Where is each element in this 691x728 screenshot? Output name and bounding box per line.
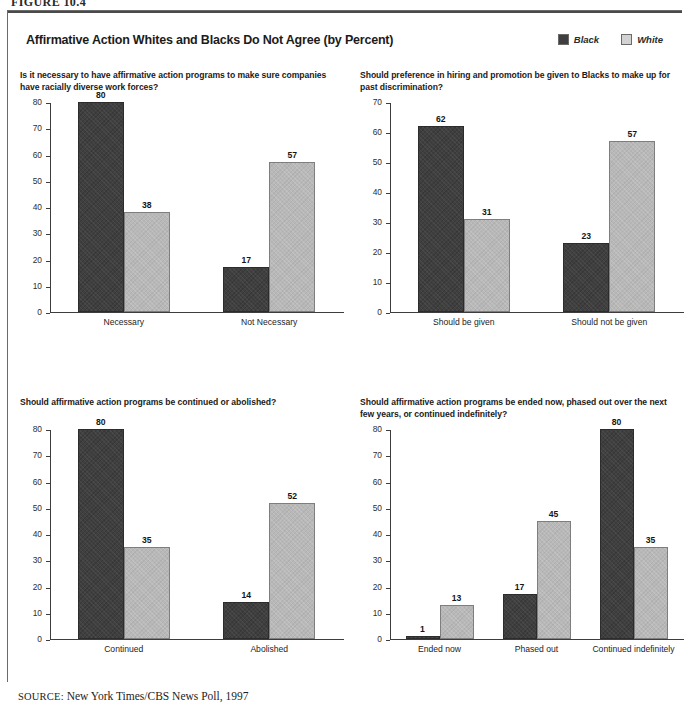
x-axis-label: Continued indefinitely bbox=[585, 642, 682, 660]
y-axis-tick-mark bbox=[386, 283, 390, 284]
bar-black-not-necessary[interactable]: 17 bbox=[223, 267, 269, 312]
bar-white-continued-indefinitely[interactable]: 35 bbox=[634, 547, 668, 639]
y-axis-tick-label: 70 bbox=[373, 97, 382, 107]
legend-item-white: White bbox=[621, 34, 663, 45]
bar-wrapper: 80 bbox=[78, 430, 124, 639]
bar-white-should-not-be-given[interactable]: 57 bbox=[609, 141, 655, 312]
bar-white-phased-out[interactable]: 45 bbox=[537, 521, 571, 639]
bar-wrapper: 80 bbox=[78, 103, 124, 312]
chart-panel-2: Should preference in hiring and promotio… bbox=[360, 69, 690, 369]
bar-group: 8038 bbox=[51, 103, 197, 312]
panel-question-1: Is it necessary to have affirmative acti… bbox=[20, 69, 338, 95]
y-axis-tick-mark bbox=[386, 193, 390, 194]
y-axis-tick-label: 0 bbox=[37, 307, 42, 317]
bar-value-label: 17 bbox=[515, 582, 525, 592]
bar-white-abolished[interactable]: 52 bbox=[269, 503, 315, 640]
y-axis-tick-label: 30 bbox=[373, 555, 382, 565]
bars-container: 11317458035 bbox=[391, 430, 682, 639]
y-axis-tick-label: 50 bbox=[373, 157, 382, 167]
legend-label-white: White bbox=[637, 34, 663, 45]
bar-value-label: 80 bbox=[612, 417, 622, 427]
bar-value-label: 35 bbox=[142, 535, 152, 545]
y-axis-tick-label: 60 bbox=[373, 477, 382, 487]
bar-value-label: 17 bbox=[241, 255, 251, 265]
y-axis-tick-mark bbox=[386, 103, 390, 104]
figure-header: Affirmative Action Whites and Blacks Do … bbox=[26, 33, 672, 55]
x-axis bbox=[50, 639, 344, 640]
bars-container: 62312357 bbox=[391, 103, 682, 312]
y-axis-tick-mark bbox=[46, 483, 50, 484]
y-axis-tick-mark bbox=[46, 509, 50, 510]
y-axis-tick-label: 70 bbox=[33, 450, 42, 460]
y-axis-tick-mark bbox=[46, 614, 50, 615]
bar-black-should-be-given[interactable]: 62 bbox=[418, 126, 464, 312]
y-axis-tick-label: 20 bbox=[373, 247, 382, 257]
y-axis-tick-mark bbox=[46, 456, 50, 457]
y-axis-tick-label: 20 bbox=[33, 255, 42, 265]
bar-white-should-be-given[interactable]: 31 bbox=[464, 219, 510, 312]
y-axis-tick-label: 80 bbox=[33, 97, 42, 107]
panel-question-3: Should affirmative action programs be co… bbox=[20, 396, 338, 422]
bar-value-label: 14 bbox=[241, 590, 251, 600]
bar-black-phased-out[interactable]: 17 bbox=[503, 594, 537, 639]
bar-value-label: 1 bbox=[420, 624, 425, 634]
y-axis-tick-label: 0 bbox=[37, 634, 42, 644]
bar-wrapper: 31 bbox=[464, 103, 510, 312]
chart-panels: Is it necessary to have affirmative acti… bbox=[16, 69, 684, 689]
bar-black-necessary[interactable]: 80 bbox=[78, 102, 124, 312]
y-axis-tick-mark bbox=[46, 182, 50, 183]
y-axis-tick-label: 50 bbox=[33, 503, 42, 513]
bar-group: 8035 bbox=[585, 430, 682, 639]
y-axis-tick-label: 20 bbox=[373, 582, 382, 592]
y-axis-tick-mark bbox=[386, 456, 390, 457]
plot-area-1: 0102030405060708080381757NecessaryNot Ne… bbox=[20, 103, 344, 335]
bar-wrapper: 17 bbox=[503, 430, 537, 639]
source-text: New York Times/CBS News Poll, 1997 bbox=[67, 690, 249, 702]
bar-black-continued[interactable]: 80 bbox=[78, 429, 124, 639]
bar-value-label: 52 bbox=[287, 491, 297, 501]
y-axis-tick-mark bbox=[46, 129, 50, 130]
legend-swatch-white-icon bbox=[621, 34, 632, 45]
y-axis-tick-mark bbox=[386, 509, 390, 510]
y-axis-tick-mark bbox=[386, 133, 390, 134]
x-axis-labels: Should be givenShould not be given bbox=[391, 315, 682, 333]
y-axis-tick-label: 40 bbox=[373, 529, 382, 539]
bar-value-label: 62 bbox=[436, 114, 446, 124]
y-axis-tick-mark bbox=[386, 614, 390, 615]
x-axis-label: Phased out bbox=[488, 642, 585, 660]
source-line: SOURCE: New York Times/CBS News Poll, 19… bbox=[18, 690, 248, 702]
y-axis-tick-mark bbox=[386, 253, 390, 254]
y-axis-tick-label: 10 bbox=[373, 608, 382, 618]
bar-wrapper: 17 bbox=[223, 103, 269, 312]
x-axis-label: Necessary bbox=[51, 315, 197, 333]
bar-white-ended-now[interactable]: 13 bbox=[440, 605, 474, 639]
plot-area-3: 0102030405060708080351452ContinuedAbolis… bbox=[20, 430, 344, 662]
bar-wrapper: 35 bbox=[634, 430, 668, 639]
bar-white-continued[interactable]: 35 bbox=[124, 547, 170, 639]
x-axis-labels: Ended nowPhased outContinued indefinitel… bbox=[391, 642, 682, 660]
x-axis-label: Abolished bbox=[197, 642, 343, 660]
bar-wrapper: 45 bbox=[537, 430, 571, 639]
bar-black-ended-now[interactable]: 1 bbox=[406, 636, 440, 639]
bar-wrapper: 35 bbox=[124, 430, 170, 639]
y-axis-tick-label: 10 bbox=[33, 608, 42, 618]
bar-value-label: 80 bbox=[96, 90, 106, 100]
bar-black-abolished[interactable]: 14 bbox=[223, 602, 269, 639]
legend-label-black: Black bbox=[574, 34, 599, 45]
legend-swatch-black-icon bbox=[558, 34, 569, 45]
y-axis-tick-label: 0 bbox=[377, 634, 382, 644]
bar-value-label: 57 bbox=[627, 129, 637, 139]
bar-wrapper: 52 bbox=[269, 430, 315, 639]
bar-black-continued-indefinitely[interactable]: 80 bbox=[600, 429, 634, 639]
y-axis-tick-label: 60 bbox=[373, 127, 382, 137]
bar-white-not-necessary[interactable]: 57 bbox=[269, 162, 315, 312]
x-axis-label: Not Necessary bbox=[197, 315, 343, 333]
y-axis-tick-mark bbox=[386, 313, 390, 314]
y-axis-tick-mark bbox=[46, 313, 50, 314]
x-axis bbox=[50, 312, 344, 313]
bar-black-should-not-be-given[interactable]: 23 bbox=[563, 243, 609, 312]
y-axis-tick-mark bbox=[46, 287, 50, 288]
bar-white-necessary[interactable]: 38 bbox=[124, 212, 170, 312]
bar-group: 1757 bbox=[197, 103, 343, 312]
x-axis bbox=[390, 312, 684, 313]
